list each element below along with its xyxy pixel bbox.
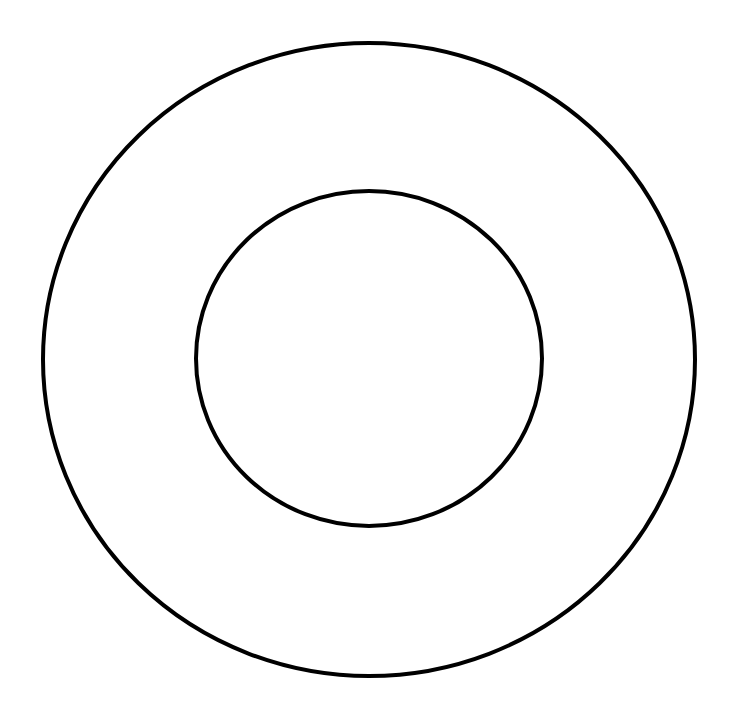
diagram-canvas [0, 0, 735, 708]
inner-circle [196, 191, 542, 526]
concentric-circles-diagram [0, 0, 735, 708]
outer-circle [43, 43, 695, 676]
